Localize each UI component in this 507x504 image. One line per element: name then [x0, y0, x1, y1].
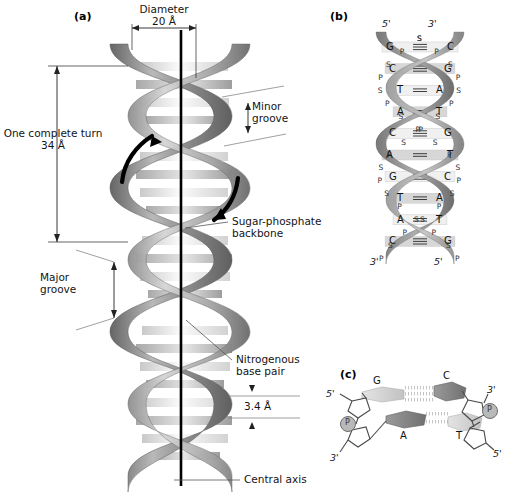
dna-figure: (a) [0, 0, 507, 504]
panel-c-label-a: A [400, 430, 407, 441]
panel-c-base-g [362, 387, 404, 402]
panel-c-hbonds-at [424, 412, 450, 423]
panel-c-right-top-prime: 3' [487, 384, 496, 395]
panel-c-right-bottom-prime: 5' [493, 448, 502, 459]
panel-c-base-c [434, 382, 466, 401]
panel-c-base-t [448, 413, 482, 431]
panel-c-hbonds-gc [404, 386, 434, 401]
panel-c-left-top-prime: 5' [326, 388, 335, 399]
panel-c-graphics [0, 0, 507, 504]
panel-c-label-c: C [443, 370, 450, 381]
panel-c-phosphate-left-label: P [345, 418, 350, 427]
panel-c-left-bottom-prime: 3' [330, 452, 339, 463]
panel-c-label-t: T [456, 430, 462, 441]
panel-c-base-a [386, 411, 426, 428]
panel-c-phosphate-right-label: P [487, 405, 492, 414]
panel-c-label-g: G [373, 375, 381, 386]
